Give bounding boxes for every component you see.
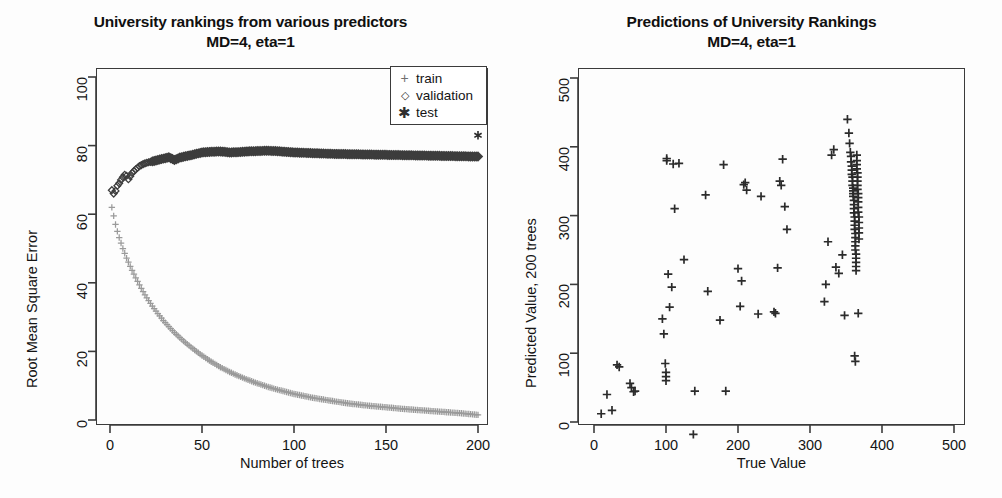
right-axis-ticks xyxy=(570,78,954,433)
series-predictions xyxy=(597,115,863,439)
left-y-tick: 80 xyxy=(73,146,91,186)
legend-item-train: + train xyxy=(397,70,479,87)
left-x-tick: 50 xyxy=(172,437,232,453)
plus-icon: + xyxy=(397,70,412,87)
right-x-axis-label: True Value xyxy=(578,455,965,471)
right-y-tick: 300 xyxy=(555,216,573,256)
right-x-tick: 300 xyxy=(780,437,840,453)
right-y-tick: 200 xyxy=(555,284,573,324)
right-x-tick: 100 xyxy=(636,437,696,453)
series-validation xyxy=(108,147,481,197)
asterisk-icon: ✱ xyxy=(397,104,412,121)
left-y-axis-label: Root Mean Square Error xyxy=(24,230,40,388)
right-x-tick: 0 xyxy=(564,437,624,453)
left-y-tick: 20 xyxy=(73,351,91,391)
legend-item-validation: ◇ validation xyxy=(397,87,479,104)
diamond-icon: ◇ xyxy=(397,87,412,104)
right-y-axis-label: Predicted Value, 200 trees xyxy=(523,218,539,388)
right-y-tick: 400 xyxy=(555,147,573,187)
right-y-tick: 500 xyxy=(555,78,573,118)
left-y-tick: 40 xyxy=(73,283,91,323)
legend-label-train: train xyxy=(416,71,442,86)
panel-rmse-vs-trees: University rankings from various predict… xyxy=(0,0,501,498)
series-test xyxy=(474,131,481,139)
legend-item-test: ✱ test xyxy=(397,104,479,121)
figure-canvas: University rankings from various predict… xyxy=(0,0,1002,498)
left-x-tick: 100 xyxy=(264,437,324,453)
left-x-tick: 150 xyxy=(356,437,416,453)
left-x-axis-label: Number of trees xyxy=(96,455,488,471)
right-y-tick: 0 xyxy=(555,422,573,462)
left-axis-ticks xyxy=(88,77,478,433)
left-x-tick: 200 xyxy=(448,437,508,453)
legend-label-test: test xyxy=(416,105,438,120)
left-y-tick: 100 xyxy=(73,77,91,117)
left-legend: + train ◇ validation ✱ test xyxy=(390,66,487,125)
right-x-tick: 200 xyxy=(708,437,768,453)
right-plot-canvas xyxy=(501,0,1002,498)
legend-label-validation: validation xyxy=(416,88,473,103)
right-x-tick: 500 xyxy=(924,437,984,453)
left-y-tick: 60 xyxy=(73,214,91,254)
right-x-tick: 400 xyxy=(852,437,912,453)
right-y-tick: 100 xyxy=(555,353,573,393)
panel-predicted-vs-true: Predictions of University Rankings MD=4,… xyxy=(501,0,1002,498)
series-train xyxy=(109,204,482,418)
left-y-tick: 0 xyxy=(73,420,91,460)
